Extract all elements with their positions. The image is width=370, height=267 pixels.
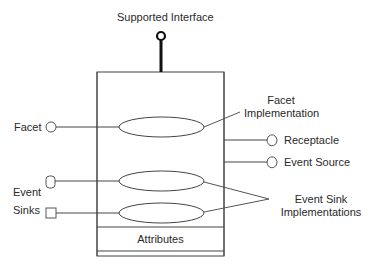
receptacle-port-icon: [267, 135, 277, 146]
facet-label: Facet: [14, 121, 42, 134]
supported-interface-icon: [157, 32, 165, 40]
event-sinks-label: Event Sinks: [13, 183, 41, 219]
attributes-label: Attributes: [97, 233, 224, 246]
facet-implementation-ellipse: [119, 117, 204, 137]
event-sinks-label-line1: Event: [13, 183, 41, 201]
event-source-label: Event Source: [284, 156, 350, 169]
event-sink-implementations-label-line1: Event Sink: [280, 193, 362, 206]
event-sink-1-port-icon: [46, 176, 55, 188]
supported-interface-label: Supported Interface: [117, 11, 214, 24]
facet-port-icon: [46, 122, 56, 132]
facet-implementation-label-line1: Facet: [244, 94, 318, 107]
event-sink-impl-1-ellipse: [119, 171, 204, 191]
event-sink-implementations-label: Event Sink Implementations: [280, 193, 362, 219]
event-sinks-label-line2: Sinks: [13, 201, 41, 219]
facet-implementation-label-line2: Implementation: [244, 107, 318, 120]
event-source-port-icon: [267, 157, 277, 168]
event-sink-impl-leader-2: [204, 199, 269, 212]
event-sink-implementations-label-line2: Implementations: [280, 206, 362, 219]
event-sink-impl-2-ellipse: [119, 203, 204, 223]
facet-implementation-label: Facet Implementation: [244, 94, 318, 120]
event-sink-2-port-icon: [46, 208, 56, 218]
component-box: [97, 72, 224, 256]
receptacle-label: Receptacle: [284, 134, 339, 147]
facet-implementation-leader: [204, 112, 240, 127]
event-sink-impl-leader-1: [204, 182, 269, 199]
